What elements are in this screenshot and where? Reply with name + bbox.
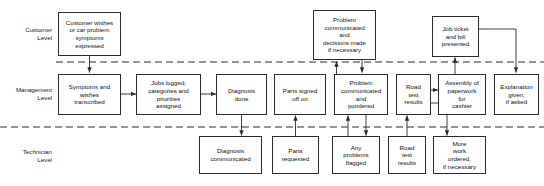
lane-label-technician: Technician Level [0,148,52,164]
node-diagnosis-done[interactable]: Diagnosis done [216,74,267,115]
node-explanation-given[interactable]: Explanation given, if asked [494,74,539,115]
node-assembly-paperwork[interactable]: Assembly of paperwork for cashier [438,74,486,115]
node-road-test-results-management[interactable]: Road test results [396,74,431,115]
node-more-work-ordered[interactable]: More work ordered, if necessary [433,136,486,174]
node-jobs-logged[interactable]: Jobs logged, categories and priorities a… [136,74,201,115]
service-blueprint-diagram: Customer Level Management Level Technici… [0,0,544,186]
node-diagnosis-communicated[interactable]: Diagnosis communicated [199,136,262,174]
node-customer-wishes[interactable]: Customer wishes or car problem symptoms … [58,12,121,56]
node-symptoms-transcribed[interactable]: Symptoms and wishes transcribed [58,74,121,115]
connector-job-ticket-to-explanation [479,29,516,73]
node-parts-requested[interactable]: Parts requested [272,136,319,174]
node-job-ticket-bill[interactable]: Job ticket and bill presented [432,16,479,57]
lane-label-customer: Customer Level [0,26,52,42]
node-road-test-results-technician[interactable]: Road test results [388,136,426,174]
node-problem-communicated-pondered[interactable]: Problem communicated and pondered [334,74,388,115]
node-any-problems-flagged[interactable]: Any problems flagged [332,136,380,174]
node-problem-communicated-decisions[interactable]: Problem communicated and decisions made … [313,10,376,60]
node-parts-signed-off[interactable]: Parts signed off on [274,74,326,115]
lane-label-management: Management Level [0,86,52,102]
